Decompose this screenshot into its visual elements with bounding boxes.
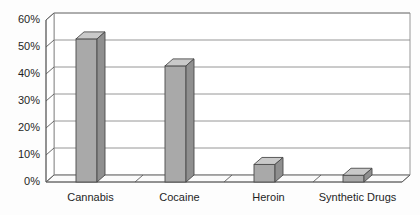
y-tick-label: 0% (0, 176, 40, 187)
y-tick-label: 60% (0, 14, 40, 25)
bar-front-face (254, 164, 275, 182)
bar-chart: 0%10%20%30%40%50%60% CannabisCocaineHero… (0, 0, 420, 215)
bar-front-face (76, 39, 97, 182)
y-tick-label: 50% (0, 41, 40, 52)
y-tick-label: 30% (0, 95, 40, 106)
x-tick-label-cannabis: Cannabis (41, 191, 141, 203)
bar-heroin[interactable] (254, 157, 283, 182)
bar-front-face (165, 66, 186, 182)
plot-area (0, 0, 420, 215)
bar-side-face (186, 59, 194, 182)
x-tick-label-cocaine: Cocaine (130, 191, 230, 203)
bar-side-face (97, 32, 105, 182)
bar-cocaine[interactable] (165, 59, 194, 182)
x-tick-label-synthetic-drugs: Synthetic Drugs (308, 191, 408, 203)
x-tick-label-heroin: Heroin (219, 191, 319, 203)
y-tick-label: 10% (0, 149, 40, 160)
y-tick-label: 20% (0, 122, 40, 133)
bar-front-face (343, 175, 364, 182)
y-tick-label: 40% (0, 68, 40, 79)
bar-cannabis[interactable] (76, 32, 105, 182)
